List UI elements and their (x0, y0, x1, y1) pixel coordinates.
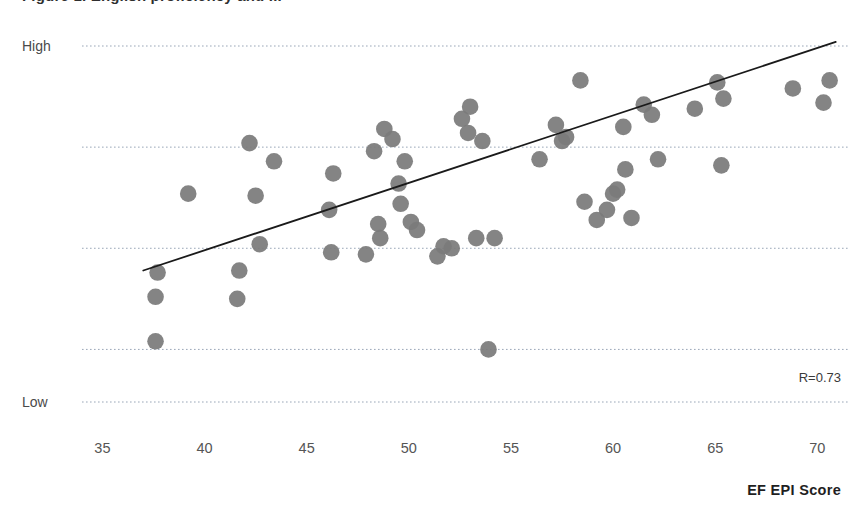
data-point (396, 153, 413, 170)
data-point (443, 240, 460, 257)
data-point (715, 90, 732, 107)
data-point (231, 262, 248, 279)
data-point (531, 151, 548, 168)
data-point (370, 216, 387, 233)
x-tick-label: 40 (175, 440, 235, 456)
data-point (650, 151, 667, 168)
data-point (468, 230, 485, 247)
x-tick-label: 35 (72, 440, 132, 456)
data-point (366, 143, 383, 160)
x-tick-label: 45 (277, 440, 337, 456)
data-point (599, 202, 616, 219)
data-point (623, 210, 640, 227)
data-point (644, 106, 661, 123)
data-point (785, 80, 802, 97)
x-tick-label: 50 (379, 440, 439, 456)
x-tick-label: 70 (787, 440, 847, 456)
data-points (147, 72, 838, 358)
x-tick-label: 55 (481, 440, 541, 456)
data-point (821, 72, 838, 89)
data-point (358, 246, 375, 263)
data-point (609, 181, 626, 198)
data-point (147, 333, 164, 350)
x-axis-title: EF EPI Score (747, 482, 841, 498)
x-tick-label: 65 (685, 440, 745, 456)
y-axis-low-label: Low (22, 394, 48, 410)
data-point (229, 291, 246, 308)
data-point (462, 98, 479, 115)
data-point (486, 230, 503, 247)
data-point (474, 133, 491, 150)
data-point (617, 161, 634, 178)
y-axis-high-label: High (22, 38, 51, 54)
data-point (815, 94, 832, 111)
data-point (615, 119, 632, 136)
gridlines (82, 46, 848, 402)
x-tick-label: 60 (583, 440, 643, 456)
data-point (266, 153, 283, 170)
data-point (687, 100, 704, 117)
data-point (325, 165, 342, 182)
data-point (392, 195, 409, 212)
data-point (572, 72, 589, 89)
data-point (180, 185, 197, 202)
correlation-annotation: R=0.73 (799, 370, 841, 385)
data-point (384, 131, 401, 148)
data-point (576, 193, 593, 210)
data-point (247, 187, 264, 204)
chart-page: Figure 1. English proficiency and ... Hi… (0, 0, 865, 531)
data-point (147, 289, 164, 306)
data-point (480, 341, 497, 358)
data-point (713, 157, 730, 174)
data-point (241, 135, 258, 152)
data-point (323, 244, 340, 261)
data-point (251, 236, 268, 253)
data-point (372, 230, 389, 247)
data-point (409, 222, 426, 239)
data-point (460, 125, 477, 142)
